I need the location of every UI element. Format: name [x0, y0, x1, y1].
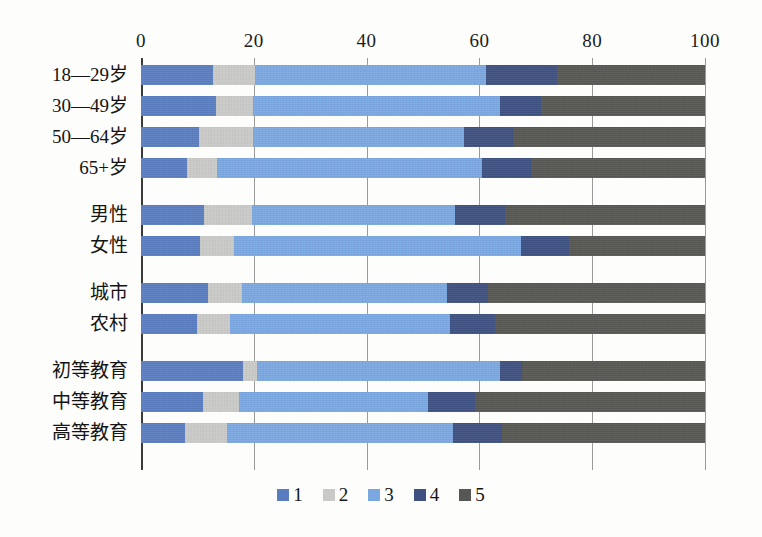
- category-label: 50—64岁: [0, 127, 128, 147]
- bar-segment-2: [216, 96, 253, 116]
- bar-segment-1: [141, 423, 185, 443]
- bar-row: 女性: [141, 236, 705, 256]
- bar-row: 65+岁: [141, 158, 705, 178]
- bar-segment-5: [488, 283, 705, 303]
- bar-segment-4: [447, 283, 488, 303]
- bar-segment-5: [505, 205, 705, 225]
- category-label: 城市: [0, 283, 128, 303]
- bar-segment-2: [204, 205, 252, 225]
- bar-segment-2: [213, 65, 255, 85]
- legend-item-1[interactable]: 1: [277, 484, 303, 506]
- bar-segment-3: [239, 392, 428, 412]
- bar-row: 城市: [141, 283, 705, 303]
- bar-segment-2: [203, 392, 239, 412]
- bar-segment-3: [252, 205, 454, 225]
- bar-segment-5: [541, 96, 705, 116]
- x-tick-label-20: 20: [244, 30, 264, 52]
- legend-swatch-icon: [323, 489, 335, 501]
- category-label: 中等教育: [0, 392, 128, 412]
- bar-segment-2: [208, 283, 242, 303]
- bar-row: 中等教育: [141, 392, 705, 412]
- bar-segment-2: [185, 423, 227, 443]
- category-label: 男性: [0, 205, 128, 225]
- bar-segment-1: [141, 205, 204, 225]
- legend-item-5[interactable]: 5: [459, 484, 485, 506]
- category-label: 18—29岁: [0, 65, 128, 85]
- bar-segment-4: [428, 392, 475, 412]
- bar-row: 初等教育: [141, 361, 705, 381]
- category-label: 女性: [0, 236, 128, 256]
- plot-area: 020406080100 18—29岁30—49岁50—64岁65+岁男性女性城…: [141, 58, 705, 470]
- category-label: 高等教育: [0, 423, 128, 443]
- bar-segment-3: [230, 314, 450, 334]
- bar-segment-3: [253, 96, 500, 116]
- bar-segment-3: [253, 127, 464, 147]
- bar-segment-3: [242, 283, 447, 303]
- bar-segment-5: [569, 236, 705, 256]
- legend-label: 3: [384, 484, 394, 506]
- legend-swatch-icon: [459, 489, 471, 501]
- bar-segment-1: [141, 158, 187, 178]
- bar-segment-5: [495, 314, 705, 334]
- bar-segment-3: [217, 158, 482, 178]
- legend-swatch-icon: [414, 489, 426, 501]
- chart-page: 020406080100 18—29岁30—49岁50—64岁65+岁男性女性城…: [0, 0, 762, 537]
- legend-item-3[interactable]: 3: [368, 484, 394, 506]
- bar-segment-1: [141, 127, 199, 147]
- bar-segment-2: [200, 236, 234, 256]
- bar-row: 30—49岁: [141, 96, 705, 116]
- bar-segment-4: [450, 314, 495, 334]
- bar-segment-3: [255, 65, 486, 85]
- bar-segment-4: [521, 236, 569, 256]
- bar-segment-1: [141, 314, 197, 334]
- bar-segment-2: [243, 361, 257, 381]
- legend-label: 2: [339, 484, 349, 506]
- bar-segment-5: [531, 158, 705, 178]
- bar-segment-3: [257, 361, 500, 381]
- legend-label: 4: [430, 484, 440, 506]
- x-tick-label-80: 80: [582, 30, 602, 52]
- bar-segment-4: [482, 158, 531, 178]
- bar-row: 男性: [141, 205, 705, 225]
- bar-segment-4: [464, 127, 513, 147]
- x-tick-label-0: 0: [136, 30, 146, 52]
- bar-segment-3: [234, 236, 521, 256]
- bar-segment-5: [513, 127, 705, 147]
- category-label: 初等教育: [0, 361, 128, 381]
- legend-swatch-icon: [368, 489, 380, 501]
- bar-row: 农村: [141, 314, 705, 334]
- bar-segment-1: [141, 361, 243, 381]
- bar-segment-4: [500, 361, 522, 381]
- x-tick-label-40: 40: [357, 30, 377, 52]
- bar-segment-5: [475, 392, 705, 412]
- bar-segment-4: [500, 96, 541, 116]
- x-tick-label-60: 60: [469, 30, 489, 52]
- bar-segment-2: [187, 158, 217, 178]
- legend-label: 5: [475, 484, 485, 506]
- bar-segment-5: [522, 361, 705, 381]
- bar-row: 50—64岁: [141, 127, 705, 147]
- bar-segment-4: [486, 65, 557, 85]
- bar-row: 高等教育: [141, 423, 705, 443]
- gridline-100: [705, 58, 706, 470]
- bar-segment-1: [141, 392, 203, 412]
- bar-segment-5: [502, 423, 705, 443]
- legend-label: 1: [293, 484, 303, 506]
- bar-segment-1: [141, 283, 208, 303]
- bar-segment-1: [141, 236, 200, 256]
- bar-segment-4: [455, 205, 506, 225]
- bar-segment-4: [453, 423, 502, 443]
- legend-swatch-icon: [277, 489, 289, 501]
- x-tick-label-100: 100: [690, 30, 720, 52]
- chart-legend: 12345: [0, 484, 762, 506]
- bar-row: 18—29岁: [141, 65, 705, 85]
- bar-segment-2: [199, 127, 253, 147]
- category-label: 65+岁: [0, 158, 128, 178]
- legend-item-4[interactable]: 4: [414, 484, 440, 506]
- bar-segment-3: [227, 423, 453, 443]
- legend-item-2[interactable]: 2: [323, 484, 349, 506]
- category-label: 农村: [0, 314, 128, 334]
- bar-segment-5: [557, 65, 705, 85]
- bar-segment-2: [197, 314, 230, 334]
- category-label: 30—49岁: [0, 96, 128, 116]
